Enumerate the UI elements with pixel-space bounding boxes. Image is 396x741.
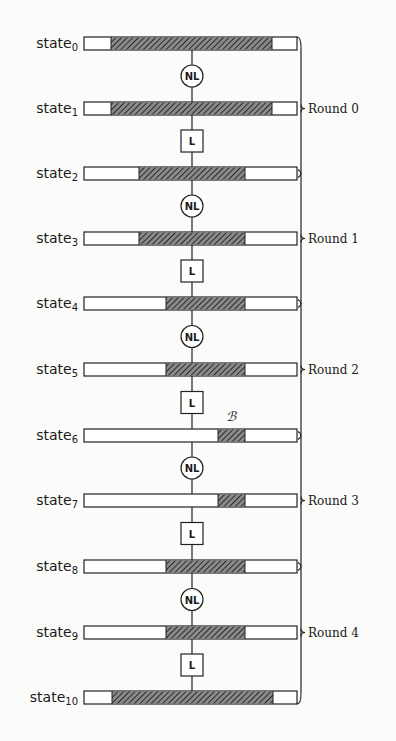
svg-text:L: L xyxy=(189,266,196,277)
state-bar-4 xyxy=(84,297,297,310)
svg-text:L: L xyxy=(189,398,196,409)
state-label-1: state1 xyxy=(36,100,78,118)
state-bar-2 xyxy=(84,167,297,180)
linear-layer-node: L xyxy=(181,260,203,282)
round-label: Round 3 xyxy=(308,494,359,508)
linear-layer-node: L xyxy=(181,130,203,152)
state-labels: state0state1state2state3state4state5stat… xyxy=(30,35,78,707)
svg-text:NL: NL xyxy=(185,463,200,474)
state-label-9: state9 xyxy=(36,624,78,642)
active-bytes-region xyxy=(111,103,272,115)
linear-layer-node: L xyxy=(181,523,203,545)
nonlinear-layer-node: NL xyxy=(181,195,203,217)
state-bar-3 xyxy=(84,232,297,245)
active-bytes-region xyxy=(139,168,245,180)
state-label-8: state8 xyxy=(36,558,78,576)
svg-text:L: L xyxy=(189,136,196,147)
state-label-4: state4 xyxy=(36,295,78,313)
round-structure-diagram: NLLNLLNLLNLLNLL state0state1state2state3… xyxy=(0,0,396,741)
svg-text:NL: NL xyxy=(185,71,200,82)
active-bytes-region xyxy=(218,495,245,507)
state-label-5: state5 xyxy=(36,361,78,379)
state-bar-5 xyxy=(84,363,297,376)
svg-text:NL: NL xyxy=(185,595,200,606)
svg-text:L: L xyxy=(189,529,196,540)
linear-layer-node: L xyxy=(181,654,203,676)
state-label-3: state3 xyxy=(36,230,78,248)
state-bar-10 xyxy=(84,691,297,704)
active-bytes-region xyxy=(111,38,272,50)
round-label: Round 0 xyxy=(308,102,359,116)
annotation: ℬ xyxy=(226,409,237,424)
state-label-7: state7 xyxy=(36,492,78,510)
round-label: Round 4 xyxy=(308,626,359,640)
round-labels: Round 0Round 1Round 2Round 3Round 4 xyxy=(308,102,359,640)
linear-layer-node: L xyxy=(181,392,203,414)
active-bytes-region xyxy=(166,561,245,573)
active-bytes-region xyxy=(112,692,273,704)
active-bytes-region xyxy=(166,627,245,639)
nonlinear-layer-node: NL xyxy=(181,326,203,348)
state-bar-7 xyxy=(84,494,297,507)
state-bar-0 xyxy=(84,37,297,50)
state-bar-6 xyxy=(84,429,297,442)
active-bytes-region xyxy=(218,430,245,442)
svg-text:L: L xyxy=(189,660,196,671)
round-label: Round 2 xyxy=(308,363,359,377)
round-brace xyxy=(297,37,305,704)
nonlinear-layer-node: NL xyxy=(181,457,203,479)
nonlinear-layer-node: NL xyxy=(181,589,203,611)
state-bar-9 xyxy=(84,626,297,639)
svg-text:NL: NL xyxy=(185,332,200,343)
state-label-2: state2 xyxy=(36,165,78,183)
state-label-0: state0 xyxy=(36,35,78,53)
round-label: Round 1 xyxy=(308,232,359,246)
active-bytes-region xyxy=(139,233,245,245)
active-bytes-region xyxy=(166,364,245,376)
state-bar-1 xyxy=(84,102,297,115)
b-set-label: ℬ xyxy=(226,409,237,424)
nonlinear-layer-node: NL xyxy=(181,65,203,87)
active-bytes-region xyxy=(166,298,245,310)
state-label-10: state10 xyxy=(30,689,78,707)
state-bar-8 xyxy=(84,560,297,573)
svg-text:NL: NL xyxy=(185,201,200,212)
state-label-6: state6 xyxy=(36,427,78,445)
